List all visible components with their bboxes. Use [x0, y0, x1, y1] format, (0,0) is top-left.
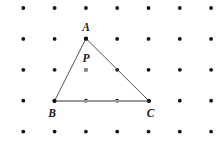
grid-dot — [147, 37, 151, 41]
grid-dot — [115, 37, 119, 41]
grid-dot — [53, 37, 57, 41]
geometry-figure: A B C P — [0, 0, 224, 145]
grid-dot — [209, 99, 213, 103]
vertex-dot-a — [84, 36, 88, 40]
triangle-side-ac — [86, 39, 149, 102]
grid-dot — [209, 37, 213, 41]
grid-dot — [21, 68, 25, 72]
grid-dot — [21, 37, 25, 41]
vertex-dots — [52, 36, 151, 103]
triangle-side-ab — [55, 39, 87, 102]
grid-dot — [178, 130, 182, 134]
figure-canvas — [0, 0, 224, 145]
grid-dot — [178, 6, 182, 10]
grid-dot — [147, 68, 151, 72]
grid-dot — [147, 6, 151, 10]
vertex-label-b: B — [48, 108, 56, 120]
point-label-p: P — [82, 53, 89, 65]
vertex-dot-c — [147, 99, 151, 103]
point-p-marker — [84, 68, 88, 72]
vertex-dot-b — [52, 99, 56, 103]
grid-dot — [209, 68, 213, 72]
grid-dot — [84, 6, 88, 10]
grid-dot — [115, 6, 119, 10]
grid-dot — [178, 99, 182, 103]
grid-dot — [53, 130, 57, 134]
interior-point-dot — [84, 68, 88, 72]
grid-dot — [178, 37, 182, 41]
grid-dot — [21, 6, 25, 10]
grid-dot — [209, 130, 213, 134]
grid-dot — [209, 6, 213, 10]
grid-dot — [147, 130, 151, 134]
grid-dot — [115, 130, 119, 134]
grid-dot — [21, 99, 25, 103]
grid-dot — [84, 130, 88, 134]
grid-dot — [53, 68, 57, 72]
grid-dot — [53, 6, 57, 10]
vertex-label-c: C — [147, 108, 155, 120]
triangle-edges — [55, 39, 150, 102]
vertex-label-a: A — [82, 22, 90, 34]
grid-dot — [21, 130, 25, 134]
grid-dot — [178, 68, 182, 72]
